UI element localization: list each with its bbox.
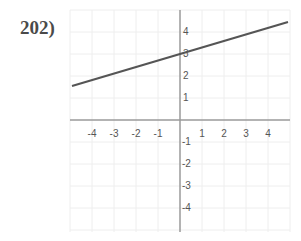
- svg-text:-4: -4: [182, 202, 191, 213]
- svg-text:-1: -1: [154, 128, 163, 139]
- svg-text:-1: -1: [182, 136, 191, 147]
- coordinate-plane: -4 -3 -2 -1 1 2 3 4 4 3 2 1 -1 -2 -3 -4: [0, 0, 301, 241]
- svg-text:4: 4: [183, 26, 189, 37]
- svg-text:-3: -3: [182, 180, 191, 191]
- svg-text:-2: -2: [132, 128, 141, 139]
- svg-text:2: 2: [183, 70, 189, 81]
- svg-text:1: 1: [183, 92, 189, 103]
- svg-text:3: 3: [243, 128, 249, 139]
- svg-text:2: 2: [221, 128, 227, 139]
- svg-text:-2: -2: [182, 158, 191, 169]
- svg-text:-4: -4: [88, 128, 97, 139]
- svg-text:-3: -3: [110, 128, 119, 139]
- svg-text:1: 1: [199, 128, 205, 139]
- svg-text:4: 4: [265, 128, 271, 139]
